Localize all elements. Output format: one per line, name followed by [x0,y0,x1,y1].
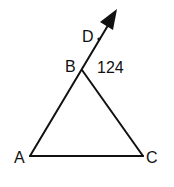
arrowhead-icon [100,9,117,30]
label-a: A [14,149,25,166]
label-d: D [82,28,94,45]
angle-value-label: 124 [97,59,124,76]
label-c: C [146,149,158,166]
segment-bc [82,70,143,156]
ray-abd [30,22,110,156]
triangle-diagram: D B 124 A C [0,0,174,187]
point-d-dot [97,37,100,40]
label-b: B [65,58,76,75]
